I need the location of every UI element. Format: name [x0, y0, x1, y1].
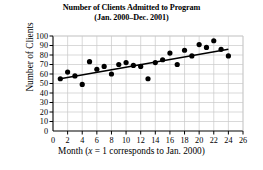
- y-tick-label: 50: [40, 79, 48, 88]
- data-point: [138, 64, 143, 69]
- x-tick-label: 0: [51, 136, 55, 145]
- data-point: [211, 38, 216, 43]
- data-point: [131, 63, 136, 68]
- x-tick-label: 8: [109, 136, 113, 145]
- data-point: [80, 82, 85, 87]
- x-tick-label: 14: [151, 136, 159, 145]
- y-tick-label: 60: [40, 70, 48, 79]
- data-point: [72, 73, 77, 78]
- x-tick-label: 4: [80, 136, 84, 145]
- data-point: [94, 67, 99, 72]
- data-point: [102, 64, 107, 69]
- data-point: [65, 70, 70, 75]
- y-tick-label: 80: [40, 51, 48, 60]
- data-point: [87, 59, 92, 64]
- data-point: [145, 76, 150, 81]
- y-tick-label: 100: [36, 32, 48, 41]
- x-tick-label: 26: [239, 136, 247, 145]
- y-tick-label: 70: [40, 60, 48, 69]
- y-tick-label: 0: [44, 127, 48, 136]
- data-point: [175, 62, 180, 67]
- data-point: [167, 51, 172, 56]
- chart-figure: Number of Clients Admitted to Program (J…: [0, 0, 263, 170]
- data-point: [189, 53, 194, 58]
- data-point: [226, 53, 231, 58]
- x-tick-label: 12: [137, 136, 145, 145]
- x-tick-label: 20: [195, 136, 203, 145]
- data-point: [116, 62, 121, 67]
- data-point: [197, 42, 202, 47]
- x-tick-label: 18: [180, 136, 188, 145]
- x-tick-label: 10: [122, 136, 130, 145]
- data-point: [182, 48, 187, 53]
- y-tick-label: 20: [40, 108, 48, 117]
- y-tick-label: 10: [40, 117, 48, 126]
- scatter-plot: 02468101214161820222426 0102030405060708…: [0, 0, 263, 170]
- data-point: [58, 76, 63, 81]
- x-tick-labels: 02468101214161820222426: [51, 136, 247, 145]
- x-tick-label: 24: [224, 136, 232, 145]
- data-point: [204, 45, 209, 50]
- data-point: [218, 47, 223, 52]
- x-tick-label: 22: [210, 136, 218, 145]
- y-tick-label: 40: [40, 89, 48, 98]
- x-tick-label: 2: [66, 136, 70, 145]
- x-tick-label: 16: [166, 136, 174, 145]
- data-point: [160, 57, 165, 62]
- x-tick-label: 6: [95, 136, 99, 145]
- data-point: [109, 71, 114, 76]
- y-tick-label: 90: [40, 41, 48, 50]
- data-point: [153, 60, 158, 65]
- data-point: [123, 60, 128, 65]
- y-tick-label: 30: [40, 98, 48, 107]
- y-tick-labels: 0102030405060708090100: [36, 32, 48, 136]
